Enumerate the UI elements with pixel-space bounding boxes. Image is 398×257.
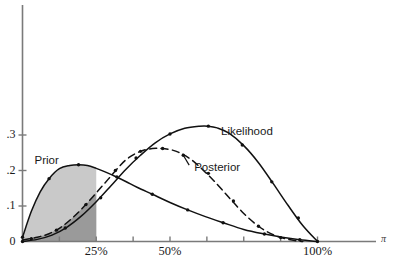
figure-container: 0 .1 .2 .3 25% 50% 100% Prior Likelihood…	[0, 0, 398, 257]
chart-canvas	[0, 0, 398, 257]
y-tick-label-0: 0	[0, 234, 16, 249]
x-axis-variable-label: π	[381, 233, 386, 244]
y-tick-label-3: .3	[0, 127, 16, 142]
x-tick-label-50pct: 50%	[140, 244, 200, 257]
y-tick-label-1: .1	[0, 198, 16, 213]
annotation-posterior: Posterior	[194, 161, 240, 173]
y-tick-label-2: .2	[0, 163, 16, 178]
x-tick-label-100pct: 100%	[288, 244, 348, 257]
annotation-likelihood: Likelihood	[221, 125, 273, 137]
x-tick-label-25pct: 25%	[66, 244, 126, 257]
annotation-prior: Prior	[35, 154, 59, 166]
